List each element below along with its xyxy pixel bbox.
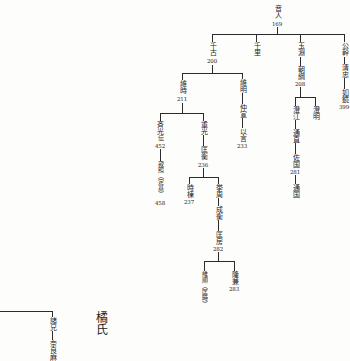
person-name: 匡房 <box>214 231 223 245</box>
connector-line <box>218 220 219 231</box>
person-name: 如鏡 <box>340 89 349 103</box>
person-name: 公幹 <box>340 42 349 56</box>
person-name: 挙周 <box>214 184 223 198</box>
reference-number: 237 <box>179 199 199 205</box>
person-name-with-note: 斉光伝 <box>155 121 165 141</box>
person-node: 朝綱 <box>294 66 306 80</box>
connector-line <box>300 57 301 66</box>
connector-line <box>203 113 204 121</box>
person-node: 奈良麻 <box>46 340 58 361</box>
person-node: 公幹 <box>338 42 350 56</box>
person-node: 諸兄 <box>46 317 58 331</box>
reference-number: 458 <box>150 200 170 206</box>
reference-number: 399 <box>334 104 350 110</box>
connector-line <box>315 97 316 106</box>
connector-line <box>212 34 345 35</box>
connector-line <box>203 135 204 146</box>
person-node: 寂照（定基） <box>154 161 166 197</box>
connector-line <box>344 34 345 42</box>
person-name: 斉光 <box>156 121 164 135</box>
person-name: 音人 <box>273 5 282 19</box>
person-node: 以言 <box>236 128 248 142</box>
reference-number: 200 <box>202 58 222 64</box>
person-node: 挙周 <box>212 184 224 198</box>
person-node: 重光 <box>197 121 209 135</box>
connector-line <box>344 57 345 64</box>
person-name: 通国 <box>291 184 300 198</box>
person-node: 音人 <box>271 5 283 19</box>
person-node: 隆兼 <box>228 271 240 285</box>
connector-line <box>300 87 301 97</box>
person-node: 澄江 <box>289 106 301 120</box>
connector-line <box>295 97 316 98</box>
person-node: 時棟 <box>183 184 195 198</box>
person-name: 時棟 <box>185 184 194 198</box>
connector-line <box>189 177 219 178</box>
connector-line <box>344 78 345 89</box>
person-node: 通国 <box>289 184 301 198</box>
person-name: 佐国 <box>291 154 300 168</box>
connector-line <box>182 103 183 113</box>
person-name: 維明 <box>238 79 247 93</box>
connector-line <box>295 97 296 106</box>
connector-line <box>52 331 53 340</box>
connector-line <box>212 34 213 42</box>
connector-line <box>204 261 235 262</box>
reference-number: 208 <box>290 81 310 87</box>
person-name: 諸兄 <box>48 317 57 331</box>
connector-line <box>242 118 243 128</box>
person-node: 成衡 <box>212 206 224 220</box>
connector-line <box>212 65 213 73</box>
connector-line <box>160 149 161 161</box>
connector-line <box>203 168 204 177</box>
connector-line <box>300 34 301 42</box>
connector-line <box>218 198 219 206</box>
person-node: 清忠 <box>338 64 350 78</box>
reference-number: 452 <box>150 143 170 149</box>
connector-line <box>234 261 235 271</box>
reference-number: 169 <box>267 21 287 27</box>
connector-line <box>160 113 161 121</box>
connector-line <box>204 261 205 271</box>
connector-line <box>295 175 296 184</box>
person-node: 維時 <box>176 80 188 94</box>
person-name: 清忠 <box>340 64 349 78</box>
person-name: 奈良麻 <box>48 340 57 361</box>
person-name: 成衡 <box>214 206 223 220</box>
connector-line <box>0 311 53 312</box>
person-node: 仲宣 <box>236 104 248 118</box>
connector-line <box>182 73 183 80</box>
connector-line <box>182 73 243 74</box>
person-name: 寂照（定基） <box>156 161 164 197</box>
connector-line <box>277 27 278 34</box>
person-node: 千里 <box>250 42 262 56</box>
person-node: 維順（匡時） <box>198 271 210 307</box>
person-name: 玉淵 <box>296 42 305 56</box>
person-node: 千古 <box>206 42 218 56</box>
biography-note: 伝 <box>157 135 164 141</box>
person-name: 維順（匡時） <box>200 271 208 307</box>
connector-line <box>160 113 204 114</box>
person-name: 千里 <box>252 42 261 56</box>
connector-line <box>295 143 296 154</box>
person-name: 朝綱 <box>296 66 305 80</box>
reference-number: 211 <box>172 96 192 102</box>
person-node: 通直 <box>289 129 301 143</box>
reference-number: 233 <box>232 143 252 149</box>
person-node: 佐国 <box>289 154 301 168</box>
person-name: 仲宣 <box>238 104 247 118</box>
person-node: 斉光伝 <box>154 121 166 141</box>
person-name: 通直 <box>291 129 300 143</box>
person-name: 以言 <box>238 128 247 142</box>
person-name: 千古 <box>208 42 217 56</box>
connector-line <box>256 34 257 42</box>
person-name: 澄江 <box>291 106 300 120</box>
person-name: 隆兼 <box>230 271 239 285</box>
reference-number: 281 <box>285 169 305 175</box>
person-node: 澄明 <box>309 106 321 120</box>
reference-number: 283 <box>224 286 244 292</box>
person-node: 匡房 <box>212 231 224 245</box>
connector-line <box>295 120 296 129</box>
person-node: 匡衡 <box>197 146 209 160</box>
connector-line <box>189 177 190 184</box>
